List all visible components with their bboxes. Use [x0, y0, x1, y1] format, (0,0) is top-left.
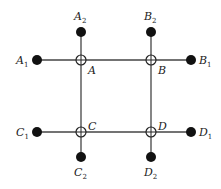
terminals — [32, 27, 196, 162]
label-b: B — [157, 64, 166, 77]
terminal-a2-dot-icon — [76, 27, 86, 37]
label-d2: D2 — [143, 166, 157, 181]
terminal-c1-dot-icon — [32, 127, 42, 137]
label-b1: B1 — [198, 54, 212, 69]
terminal-a1-dot-icon — [32, 55, 42, 65]
label-d1: D1 — [198, 126, 212, 141]
label-c: C — [88, 120, 97, 133]
terminal-d2-dot-icon — [146, 152, 156, 162]
label-c2: C2 — [74, 166, 87, 181]
label-d: D — [157, 120, 167, 133]
label-b2: B2 — [143, 10, 157, 25]
connection-lines — [37, 32, 191, 157]
label-a: A — [87, 64, 96, 77]
label-a2: A2 — [73, 10, 86, 25]
grid-network-diagram: A B C D A1 A2 B1 B2 C1 C2 D1 D2 — [0, 0, 221, 189]
terminal-d1-dot-icon — [186, 127, 196, 137]
terminal-b2-dot-icon — [146, 27, 156, 37]
terminal-c2-dot-icon — [76, 152, 86, 162]
terminal-b1-dot-icon — [186, 55, 196, 65]
label-c1: C1 — [16, 126, 29, 141]
label-a1: A1 — [15, 54, 28, 69]
